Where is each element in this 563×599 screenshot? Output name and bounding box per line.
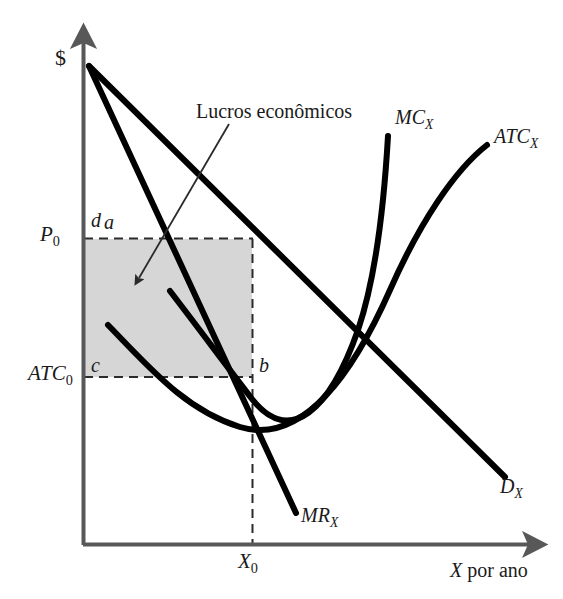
figure-canvas: $ Lucros econômicos MCX ATCX P0 d a ATC0… [0,0,563,599]
quantity-axis-label: X0 [238,551,258,575]
atc-axis-label: ATC0 [28,363,73,387]
point-label-b: b [259,355,269,375]
atc0-label-base: ATC [28,361,66,385]
price-label-sub: 0 [53,233,60,249]
atc0-label-sub: 0 [66,372,73,388]
price-label-base: P [40,222,53,246]
economic-profit-rectangle [84,239,252,377]
y-axis-label: $ [55,47,66,69]
point-label-c: c [91,355,100,375]
marginal-cost-curve-label: MCX [395,107,433,132]
mr-label-sub: X [330,515,338,530]
price-axis-label: P0 [40,224,60,248]
d-label-sub: X [514,486,522,501]
economics-diagram-svg [0,0,563,599]
mc-label-sub: X [425,117,433,132]
point-label-d: d [91,210,101,230]
mc-label-base: MC [395,106,425,128]
profit-annotation-label: Lucros econômicos [196,101,352,121]
average-total-cost-curve-label: ATCX [494,126,538,151]
x-axis-label: X por ano [450,560,528,580]
atc-label-base: ATC [494,125,530,147]
mr-label-base: MR [301,504,330,526]
demand-curve-label: DX [500,476,523,501]
point-label-a: a [104,212,114,232]
marginal-revenue-curve-label: MRX [301,505,338,530]
x-axis-label-text: por ano [462,559,528,581]
atc-label-sub: X [530,136,538,151]
x0-label-base: X [238,549,251,573]
d-label-base: D [500,475,514,497]
x0-label-sub: 0 [251,560,258,576]
x-axis-label-symbol: X [450,559,462,581]
